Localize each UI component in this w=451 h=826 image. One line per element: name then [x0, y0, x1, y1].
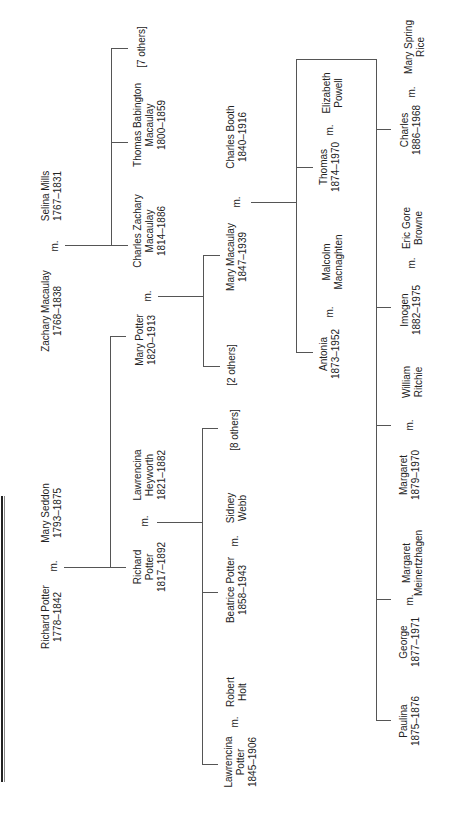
person-label: Charles Booth 1840–1916 [225, 105, 249, 168]
marriage-label: m. [139, 515, 151, 526]
person-label: Richard Potter 1778–1842 [40, 585, 64, 649]
person-label: Charles 1886–1968 [399, 105, 423, 155]
connector-potter-marriage [64, 567, 110, 568]
person-label: Mary Macaulay 1847–1939 [225, 223, 249, 291]
marriage-label: m. [406, 257, 418, 268]
person-label: Lawrencina Potter 1845–1906 [223, 736, 259, 787]
page-edge-rule-thick [1, 496, 3, 782]
marriage-label: m. [229, 716, 241, 727]
connector-potter-heyworth-marriage [157, 522, 202, 523]
marriage-label: m. [404, 594, 416, 605]
connector-booth-marriage [251, 202, 296, 203]
connector-booth-children-bar-a [296, 59, 297, 353]
connector-booth-children-bar-b [376, 59, 377, 721]
person-label: Zachary Macaulay 1768–1838 [40, 270, 64, 352]
person-label: Mary Seddon 1793–1875 [40, 483, 64, 542]
person-label: Robert Holt [225, 677, 249, 707]
connector-tick-richard-potter-jr [110, 567, 126, 568]
connector-tick-beatrice-potter [202, 592, 218, 593]
person-label: Thomas 1874–1970 [318, 142, 342, 192]
person-label: Margaret Meinertzhagen [401, 530, 425, 596]
connector-tick-antonia [296, 352, 313, 353]
person-label: Sidney Webb [225, 493, 249, 524]
connector-tick-mary-macaulay [203, 255, 220, 256]
connector-macaulay-potter-marriage [158, 296, 203, 297]
person-label: Elizabeth Powell [321, 72, 345, 113]
person-label: Imogen 1882–1975 [399, 285, 423, 335]
marriage-label: m. [142, 290, 154, 301]
person-label: Paulina 1875–1876 [398, 696, 422, 746]
person-label: Mary Spring Rice [403, 20, 427, 74]
person-label: Mary Potter 1820–1913 [134, 314, 158, 366]
person-label: Beatrice Potter 1858–1943 [225, 557, 249, 623]
connector-tick-charles-zachary [111, 245, 128, 246]
person-label: Antonia 1873–1952 [318, 329, 342, 379]
connector-tick-mary-potter [110, 336, 126, 337]
person-label: Lawrencina Heyworth 1821–1882 [132, 449, 168, 500]
marriage-label: m. [49, 240, 61, 251]
marriage-label: m. [324, 124, 336, 135]
connector-potter-heyworth-children-bar [202, 428, 203, 765]
person-label: Richard Potter 1817–1892 [132, 542, 168, 592]
connector-tick-thomas [296, 167, 313, 168]
marriage-label: m. [324, 306, 336, 317]
person-label: Eric Gore Browne [401, 207, 425, 249]
connector-tick-margaret [376, 425, 391, 426]
connector-tick-charles [376, 129, 391, 130]
connector-tick-8-others [202, 428, 218, 429]
connector-macaulay-children-bar [111, 48, 112, 246]
connector-booth-top [296, 59, 376, 60]
marriage-label: m. [229, 535, 241, 546]
connector-macaulay-marriage [65, 245, 111, 246]
marriage-label: m. [48, 560, 60, 571]
page-edge-rule-thin [4, 496, 5, 782]
person-label: [8 others] [229, 409, 241, 451]
connector-tick-thomas-babington [111, 142, 128, 143]
person-label: Charles Zachary Macaulay 1814–1886 [132, 194, 168, 267]
connector-tick-imogen [376, 307, 391, 308]
person-label: George 1877–1971 [398, 617, 422, 667]
marriage-label: m. [406, 86, 418, 97]
connector-macaulay-potter-children-bar [203, 255, 204, 367]
connector-tick-2-others [203, 366, 220, 367]
person-label: [2 others] [226, 344, 238, 386]
connector-potter-children-bar [110, 336, 111, 568]
connector-tick-lawrencina-potter [202, 764, 218, 765]
person-label: Malcolm Macnaghten [321, 234, 345, 289]
connector-tick-7-others [111, 48, 128, 49]
person-label: Selina Mills 1767–1831 [40, 171, 64, 222]
person-label: Margaret 1879–1970 [398, 450, 422, 500]
person-label: William Ritchie [401, 366, 425, 398]
person-label: Thomas Babington Macaulay 1800–1859 [132, 83, 168, 167]
connector-tick-paulina [376, 720, 391, 721]
marriage-label: m. [231, 196, 243, 207]
person-label: [7 others] [136, 26, 148, 68]
marriage-label: m. [404, 419, 416, 430]
connector-tick-george [376, 599, 391, 600]
